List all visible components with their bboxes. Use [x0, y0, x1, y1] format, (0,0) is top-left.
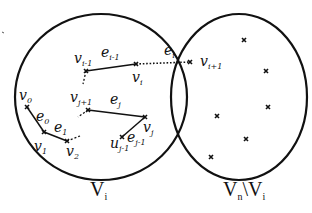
label-e1: e1	[54, 119, 67, 137]
label-vj+1: vj+1	[70, 89, 92, 107]
set-vn-minus-vi-ellipse	[171, 14, 307, 180]
label-v2: v2	[66, 143, 79, 161]
set-vi-ellipse	[15, 14, 187, 180]
label-e0: e0	[36, 108, 49, 126]
label-v1: v1	[34, 138, 47, 156]
label-vi: vi	[132, 69, 143, 87]
label-ej: ej	[110, 91, 121, 109]
edge-ei-1	[86, 64, 136, 71]
stray-mark	[2, 32, 4, 33]
label-v0: v0	[19, 87, 32, 105]
set-label-vn-minus-vi: Vn\Vi	[223, 178, 265, 202]
path-diagram: v0 v1 v2 vi-1 vi vi+1 vj+1 vj uj-1 e0 e1…	[0, 0, 312, 213]
label-vi+1: vi+1	[200, 53, 222, 71]
edge-ei	[136, 62, 190, 64]
label-ei-1: ei-1	[101, 44, 120, 62]
edge-ej	[88, 110, 145, 117]
label-ei: ei	[164, 42, 175, 60]
set-label-vi: Vi	[90, 178, 107, 202]
label-vj: vj	[143, 119, 154, 137]
label-vi-1: vi-1	[74, 50, 92, 68]
edge-e1-cont	[67, 136, 80, 141]
